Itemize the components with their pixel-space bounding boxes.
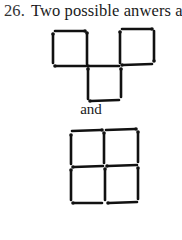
match-head [102,131,106,135]
matchstick [108,165,137,166]
match-head [69,133,73,137]
matchstick [74,166,103,167]
match-head [119,67,123,71]
match-head [120,63,124,67]
match-head [105,164,109,168]
match-head [86,67,90,71]
matchstick [109,202,137,203]
match-head [100,128,104,132]
figure-answer-2 [69,127,140,205]
match-head [136,166,140,170]
match-head [118,30,122,34]
match-head [106,201,110,205]
match-head [71,201,75,205]
match-head [69,168,73,172]
match-head [71,165,75,169]
match-head [152,59,156,63]
match-head [103,167,107,171]
match-head [85,31,89,35]
match-head [51,32,55,36]
matchstick [72,130,101,131]
match-head [136,130,140,134]
match-head [134,127,138,131]
matchstick [106,129,135,130]
match-head [53,64,57,68]
separator-text: and [0,101,182,118]
matchstick [123,64,152,65]
figure-answer-1 [51,27,156,103]
